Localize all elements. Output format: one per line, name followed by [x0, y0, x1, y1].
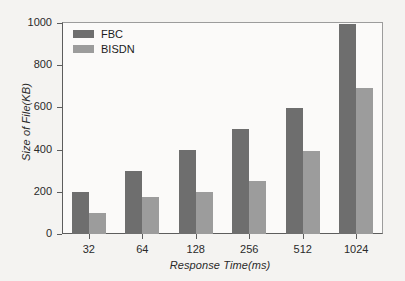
y-tick-mark	[57, 192, 62, 193]
y-tick-label: 600	[0, 100, 52, 112]
y-tick-mark	[57, 65, 62, 66]
x-tick-mark	[142, 234, 143, 239]
y-tick-mark	[57, 107, 62, 108]
y-tick-label: 800	[0, 58, 52, 70]
x-tick-mark	[89, 234, 90, 239]
chart-legend: FBCBISDN	[73, 26, 151, 56]
x-tick-label: 128	[166, 243, 226, 255]
x-tick-mark	[249, 234, 250, 239]
x-tick-mark	[196, 234, 197, 239]
x-tick-mark	[356, 234, 357, 239]
bar-bisdn-512	[303, 151, 320, 234]
bar-bisdn-64	[142, 197, 159, 234]
x-tick-label: 512	[273, 243, 333, 255]
x-tick-label: 32	[59, 243, 119, 255]
bar-bisdn-1024	[356, 88, 373, 234]
legend-swatch-bisdn	[73, 45, 94, 53]
bar-chart-figure: Size of File(KB) 02004006008001000 32641…	[0, 0, 405, 281]
bar-fbc-1024	[339, 24, 356, 234]
x-tick-label: 64	[112, 243, 172, 255]
y-axis-label: Size of File(KB)	[20, 52, 32, 192]
y-tick-mark	[57, 23, 62, 24]
x-axis-label: Response Time(ms)	[55, 259, 385, 271]
x-tick-label: 1024	[326, 243, 386, 255]
x-tick-label: 256	[219, 243, 279, 255]
bar-bisdn-256	[249, 181, 266, 234]
bar-fbc-32	[72, 192, 89, 234]
x-tick-mark	[303, 234, 304, 239]
bar-fbc-128	[179, 150, 196, 234]
bar-bisdn-32	[89, 213, 106, 234]
legend-swatch-fbc	[73, 30, 94, 38]
y-tick-mark	[57, 150, 62, 151]
bar-fbc-512	[286, 108, 303, 234]
bar-fbc-64	[125, 171, 142, 234]
legend-entry-bisdn: BISDN	[73, 41, 151, 56]
legend-entry-fbc: FBC	[73, 26, 151, 41]
bar-fbc-256	[232, 129, 249, 235]
y-tick-mark	[57, 234, 62, 235]
bar-bisdn-128	[196, 192, 213, 234]
y-tick-label: 400	[0, 143, 52, 155]
y-tick-label: 0	[0, 227, 52, 239]
y-tick-label: 200	[0, 185, 52, 197]
legend-label: FBC	[101, 28, 123, 40]
y-tick-label: 1000	[0, 16, 52, 28]
legend-label: BISDN	[101, 43, 135, 55]
